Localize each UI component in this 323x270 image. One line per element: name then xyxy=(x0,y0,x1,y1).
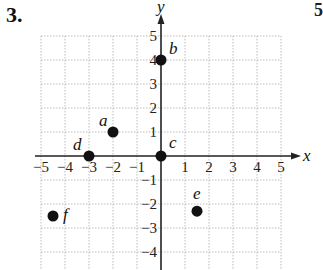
y-tick-label: −2 xyxy=(141,196,157,212)
x-tick-label: −5 xyxy=(33,159,49,175)
point-e xyxy=(192,206,203,217)
point-label-d: d xyxy=(73,135,82,154)
y-axis-label: y xyxy=(155,0,165,16)
point-b xyxy=(156,55,167,66)
y-tick-label: 5 xyxy=(150,28,158,44)
y-tick-label: −1 xyxy=(141,172,157,188)
x-axis-arrow-icon xyxy=(291,153,301,160)
x-tick-label: −4 xyxy=(57,159,73,175)
x-tick-label: 5 xyxy=(277,159,285,175)
point-f xyxy=(48,211,59,222)
point-label-b: b xyxy=(169,39,178,58)
x-tick-label: 3 xyxy=(229,159,237,175)
y-tick-label: −4 xyxy=(141,244,157,260)
y-tick-label: −3 xyxy=(141,220,157,236)
point-label-f: f xyxy=(63,205,70,224)
point-label-a: a xyxy=(99,111,108,130)
point-label-e: e xyxy=(193,184,201,203)
x-tick-label: 4 xyxy=(253,159,261,175)
y-tick-label: 2 xyxy=(150,100,158,116)
x-tick-label: 1 xyxy=(181,159,189,175)
point-a xyxy=(108,127,119,138)
x-tick-label: −2 xyxy=(105,159,121,175)
point-label-c: c xyxy=(169,133,177,152)
y-tick-label: 1 xyxy=(150,124,158,140)
point-c xyxy=(156,151,167,162)
y-tick-label: 3 xyxy=(150,76,158,92)
x-axis-label: x xyxy=(302,146,311,165)
point-d xyxy=(84,151,95,162)
x-tick-label: 2 xyxy=(205,159,213,175)
